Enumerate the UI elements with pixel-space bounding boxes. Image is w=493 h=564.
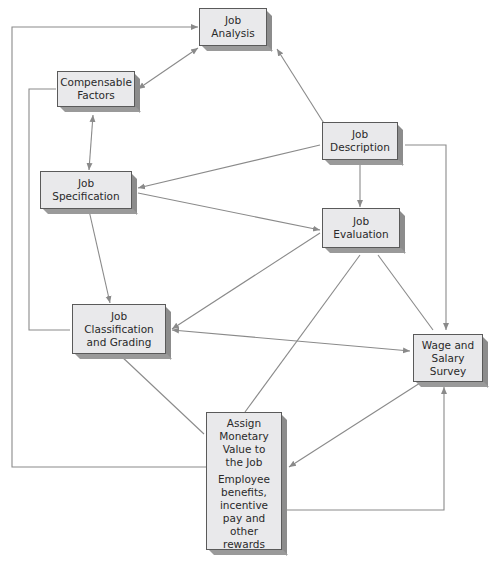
- node-job-specification: Job Specification: [40, 171, 132, 209]
- edge-description-wage: [405, 145, 446, 330]
- edge-assign-wage-loop: [282, 387, 444, 510]
- node-job-analysis: Job Analysis: [199, 8, 267, 46]
- edge-evaluation-wage: [378, 255, 433, 330]
- node-compensable-factors-label: Compensable Factors: [58, 76, 134, 102]
- edge-description-specification: [138, 145, 320, 188]
- diagram-canvas: Job Analysis Compensable Factors Job Des…: [0, 0, 493, 564]
- edge-evaluation-classification: [172, 233, 320, 329]
- node-wage-survey-label: Wage and Salary Survey: [414, 339, 482, 378]
- node-job-analysis-label: Job Analysis: [200, 14, 266, 40]
- edge-classification-assign: [120, 355, 204, 434]
- node-compensable-factors: Compensable Factors: [57, 71, 135, 107]
- edge-specification-classification: [88, 206, 110, 303]
- node-job-description: Job Description: [322, 122, 398, 160]
- edge-compensable-specification: [89, 115, 93, 170]
- edge-wage-assign: [289, 383, 420, 467]
- node-job-classification: Job Classification and Grading: [72, 304, 166, 354]
- edge-classification-wage: [172, 330, 410, 351]
- node-job-evaluation: Job Evaluation: [322, 208, 400, 248]
- node-job-description-label: Job Description: [323, 128, 397, 154]
- node-job-specification-label: Job Specification: [41, 177, 131, 203]
- node-wage-survey: Wage and Salary Survey: [413, 334, 483, 382]
- edge-analysis-compensable: [138, 48, 198, 89]
- edge-description-analysis: [277, 49, 325, 125]
- node-assign-value-label: Assign Monetary Value to the Job: [212, 417, 276, 469]
- node-job-classification-label: Job Classification and Grading: [73, 310, 165, 349]
- edge-evaluation-assign: [245, 255, 360, 412]
- edge-specification-evaluation: [138, 193, 320, 230]
- node-job-evaluation-label: Job Evaluation: [323, 215, 399, 241]
- node-benefits-label: Employee benefits, incentive pay and oth…: [212, 473, 276, 551]
- node-assign-value: Assign Monetary Value to the Job Employe…: [206, 412, 282, 550]
